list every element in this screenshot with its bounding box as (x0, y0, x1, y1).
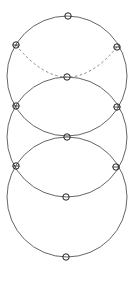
point-upper-right (114, 44, 120, 50)
top-circle (7, 16, 127, 136)
points-layer (13, 13, 120, 260)
hidden-dashed-arc (16, 45, 117, 77)
point-lower-right (113, 164, 119, 170)
circles-layer (7, 16, 127, 257)
point-upper-left (13, 42, 19, 48)
stacked-circles-diagram (0, 0, 136, 281)
